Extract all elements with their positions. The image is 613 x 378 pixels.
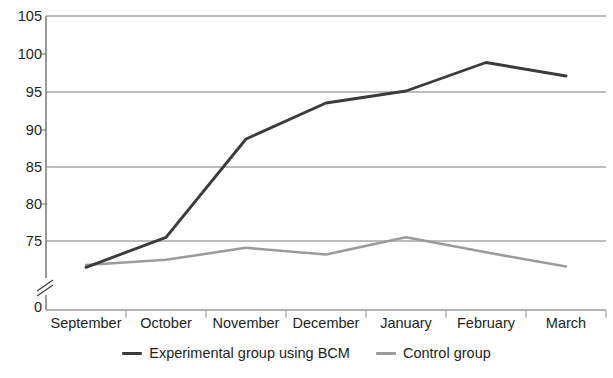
gridlines [46, 16, 606, 241]
y-axis-ticks [40, 54, 46, 204]
legend-item-control-group: Control group [376, 346, 491, 361]
x-axis-tick-label: October [126, 310, 206, 336]
axis-break-icon [37, 278, 53, 296]
x-axis-tick-label: December [286, 310, 366, 336]
legend-item-experimental-group: Experimental group using BCM [122, 346, 350, 361]
legend-swatch-icon [376, 352, 396, 355]
x-axis-tick-label: January [366, 310, 446, 336]
series-line-experimental-group [86, 63, 566, 268]
x-axis-tick-label: November [206, 310, 286, 336]
legend-swatch-icon [122, 352, 142, 355]
line-chart: 105 100 95 90 85 80 75 0 [0, 0, 613, 378]
x-axis-tick-label: March [526, 310, 606, 336]
x-axis: September October November December Janu… [46, 310, 606, 336]
legend-label: Experimental group using BCM [149, 346, 350, 361]
x-axis-tick-label: February [446, 310, 526, 336]
legend-label: Control group [403, 346, 491, 361]
chart-legend: Experimental group using BCM Control gro… [0, 346, 613, 361]
x-axis-tick-label: September [46, 310, 126, 336]
